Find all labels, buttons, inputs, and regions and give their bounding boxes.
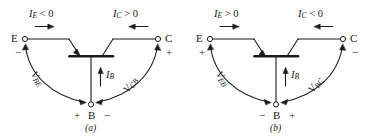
emitter-terminal-label-b: E bbox=[196, 33, 203, 44]
emitter-current-label-b: IE > 0 bbox=[214, 9, 239, 20]
base-current-label-b: IB bbox=[291, 70, 299, 81]
vcb-arrowhead-top-a bbox=[155, 44, 161, 50]
collector-current-arrowhead-a bbox=[129, 24, 135, 29]
collector-terminal-node-b bbox=[340, 36, 345, 41]
veb-arrowhead-bottom-b bbox=[264, 100, 271, 105]
vbe-arrowhead-bottom-a bbox=[79, 100, 86, 105]
base-terminal-label-a: B bbox=[88, 110, 95, 121]
collector-current-arrowhead-b bbox=[314, 24, 320, 29]
collector-terminal-label-a: C bbox=[165, 33, 172, 44]
collector-polarity-sign-a: + bbox=[166, 47, 172, 58]
collector-current-relation-b: < bbox=[309, 8, 315, 19]
collector-current-label-b: IC < 0 bbox=[298, 9, 323, 20]
emitter-current-arrowhead-b bbox=[233, 24, 239, 29]
base-current-arrowhead-a bbox=[98, 68, 103, 74]
emitter-terminal-node-a bbox=[22, 36, 27, 41]
collector-slant-b bbox=[288, 39, 299, 56]
figure-root: IE < 0 IC > 0 E − C + IB VBE VCB + B − (… bbox=[0, 0, 369, 136]
base-terminal-node-b bbox=[273, 102, 278, 107]
collector-slant-a bbox=[103, 39, 114, 56]
collector-current-relation-a: > bbox=[124, 8, 130, 19]
emitter-current-arrowhead-a bbox=[48, 24, 54, 29]
emitter-terminal-node-b bbox=[207, 36, 212, 41]
figure-panel-a: IE < 0 IC > 0 E − C + IB VBE VCB + B − (… bbox=[0, 0, 184, 136]
base-left-sign-b: − bbox=[259, 110, 265, 121]
base-current-label-a: IB bbox=[106, 70, 114, 81]
collector-polarity-sign-b: − bbox=[352, 47, 358, 58]
base-current-subscript-b: B bbox=[295, 72, 300, 81]
base-right-sign-a: − bbox=[104, 110, 110, 121]
emitter-polarity-sign-b: + bbox=[199, 47, 205, 58]
vbe-arrowhead-top-a bbox=[23, 44, 29, 50]
base-current-subscript-a: B bbox=[110, 72, 115, 81]
collector-terminal-node-a bbox=[155, 36, 160, 41]
emitter-polarity-sign-a: − bbox=[15, 47, 21, 58]
base-terminal-label-b: B bbox=[273, 110, 280, 121]
emitter-current-relation-a: < bbox=[40, 8, 46, 19]
emitter-terminal-label-a: E bbox=[11, 33, 18, 44]
emitter-current-value-b: 0 bbox=[233, 8, 238, 19]
panel-caption-a: (a) bbox=[85, 123, 96, 133]
base-right-sign-b: + bbox=[289, 110, 295, 121]
emitter-current-value-a: 0 bbox=[48, 8, 53, 19]
vbc-arrowhead-bottom-b bbox=[281, 100, 288, 105]
figure-panel-b: IE > 0 IC < 0 E + C − IB VEB VBC − B + (… bbox=[185, 0, 369, 136]
vcb-arrowhead-bottom-a bbox=[96, 100, 103, 105]
veb-arrowhead-top-b bbox=[208, 44, 214, 50]
panel-caption-b: (b) bbox=[270, 123, 281, 133]
collector-current-value-b: 0 bbox=[318, 8, 323, 19]
vbc-arrowhead-top-b bbox=[340, 44, 346, 50]
base-left-sign-a: + bbox=[74, 110, 80, 121]
base-current-arrowhead-b bbox=[283, 68, 288, 74]
collector-current-value-a: 0 bbox=[133, 8, 138, 19]
base-terminal-node-a bbox=[88, 102, 93, 107]
collector-terminal-label-b: C bbox=[350, 33, 357, 44]
emitter-current-relation-b: > bbox=[225, 8, 231, 19]
emitter-current-label-a: IE < 0 bbox=[29, 9, 54, 20]
collector-current-label-a: IC > 0 bbox=[113, 9, 138, 20]
emitter-arrowhead-a bbox=[74, 49, 80, 55]
